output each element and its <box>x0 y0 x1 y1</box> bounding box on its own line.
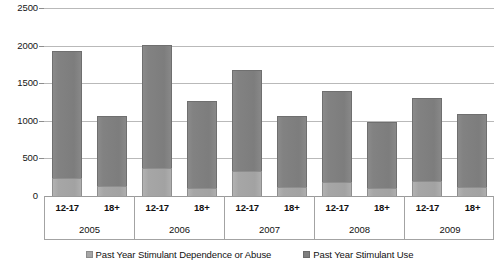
bar-segment-stimulant-use <box>232 70 262 172</box>
plot-area <box>44 8 494 196</box>
bar-2008-18- <box>367 122 397 196</box>
y-axis-tick-mark <box>39 8 44 9</box>
y-axis-tick-label: 2500 <box>0 3 38 13</box>
bar-segment-stimulant-use <box>367 122 397 188</box>
y-axis-tick-mark <box>39 46 44 47</box>
axis-age-label: 12-17 <box>225 196 270 218</box>
bar-segment-dependence-or-abuse <box>187 188 217 196</box>
bar-segment-stimulant-use <box>97 116 127 187</box>
axis-subtick-row: 12-1718+ <box>405 196 495 218</box>
legend-item: Past Year Stimulant Dependence or Abuse <box>86 249 272 260</box>
bar-segment-dependence-or-abuse <box>277 187 307 196</box>
axis-group-2009: 12-1718+2009 <box>405 196 495 240</box>
bar-2009-12-17 <box>412 98 442 197</box>
axis-subtick-row: 12-1718+ <box>315 196 404 218</box>
bar-2008-12-17 <box>322 91 352 196</box>
bar-2005-18- <box>97 116 127 196</box>
bar-2007-18- <box>277 116 307 196</box>
bar-segment-dependence-or-abuse <box>232 171 262 196</box>
y-axis-tick-label: 1500 <box>0 78 38 88</box>
gridline-1500 <box>44 83 494 84</box>
axis-year-label: 2009 <box>405 219 495 240</box>
legend-label: Past Year Stimulant Dependence or Abuse <box>96 249 272 260</box>
axis-age-label: 12-17 <box>135 196 180 218</box>
category-axis: 12-1718+200512-1718+200612-1718+200712-1… <box>44 196 494 240</box>
axis-group-2007: 12-1718+2007 <box>225 196 315 240</box>
axis-age-label: 18+ <box>270 196 315 218</box>
axis-age-label: 18+ <box>360 196 405 218</box>
bar-segment-dependence-or-abuse <box>142 168 172 196</box>
axis-group-2008: 12-1718+2008 <box>315 196 405 240</box>
bar-segment-dependence-or-abuse <box>52 178 82 196</box>
axis-subtick-row: 12-1718+ <box>135 196 224 218</box>
chart-legend: Past Year Stimulant Dependence or AbuseP… <box>0 246 499 263</box>
y-axis-tick-label: 2000 <box>0 41 38 51</box>
bar-segment-stimulant-use <box>52 51 82 178</box>
axis-group-2006: 12-1718+2006 <box>135 196 225 240</box>
bar-2006-18- <box>187 101 217 197</box>
bar-segment-stimulant-use <box>142 45 172 168</box>
axis-subtick-row: 12-1718+ <box>45 196 134 218</box>
bar-segment-dependence-or-abuse <box>367 188 397 196</box>
axis-year-label: 2008 <box>315 219 404 240</box>
bar-segment-dependence-or-abuse <box>457 187 487 196</box>
axis-year-label: 2005 <box>45 219 134 240</box>
stacked-bar-chart: 05001000150020002500 12-1718+200512-1718… <box>0 0 499 263</box>
axis-group-2005: 12-1718+2005 <box>45 196 135 240</box>
axis-age-label: 18+ <box>90 196 135 218</box>
bar-2009-18- <box>457 114 487 196</box>
axis-year-label: 2006 <box>135 219 224 240</box>
legend-label: Past Year Stimulant Use <box>313 249 413 260</box>
y-axis-tick-label: 0 <box>0 191 38 201</box>
gridline-2500 <box>44 8 494 9</box>
bar-segment-stimulant-use <box>187 101 217 188</box>
bar-segment-dependence-or-abuse <box>412 181 442 196</box>
y-axis-tick-label: 1000 <box>0 116 38 126</box>
axis-age-label: 18+ <box>450 196 495 218</box>
y-axis-tick-label: 500 <box>0 153 38 163</box>
bar-segment-dependence-or-abuse <box>97 186 127 196</box>
axis-subtick-row: 12-1718+ <box>225 196 314 218</box>
y-axis-tick-mark <box>39 83 44 84</box>
bar-segment-dependence-or-abuse <box>322 182 352 196</box>
axis-age-label: 12-17 <box>315 196 360 218</box>
axis-year-label: 2007 <box>225 219 314 240</box>
bar-segment-stimulant-use <box>412 98 442 181</box>
bar-2007-12-17 <box>232 70 262 196</box>
y-axis-tick-mark <box>39 121 44 122</box>
axis-age-label: 12-17 <box>405 196 450 218</box>
gridline-2000 <box>44 46 494 47</box>
legend-swatch-icon <box>86 251 93 258</box>
bar-2006-12-17 <box>142 45 172 196</box>
bar-segment-stimulant-use <box>277 116 307 187</box>
bar-2005-12-17 <box>52 51 82 196</box>
bar-segment-stimulant-use <box>457 114 487 187</box>
y-axis-tick-mark <box>39 158 44 159</box>
legend-item: Past Year Stimulant Use <box>303 249 413 260</box>
axis-age-label: 12-17 <box>45 196 90 218</box>
legend-swatch-icon <box>303 251 310 258</box>
axis-age-label: 18+ <box>180 196 225 218</box>
bar-segment-stimulant-use <box>322 91 352 182</box>
